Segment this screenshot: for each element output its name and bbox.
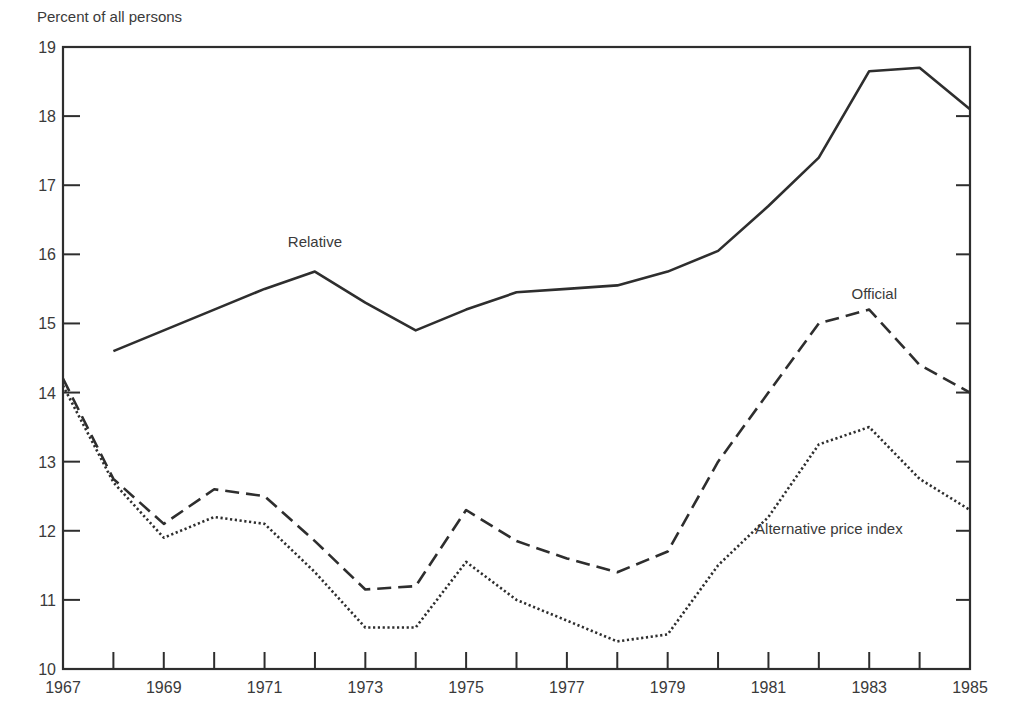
y-tick-label: 13 [38, 454, 56, 471]
y-tick-label: 16 [38, 246, 56, 263]
x-tick-label: 1971 [247, 679, 283, 696]
x-tick-label: 1967 [45, 679, 81, 696]
y-tick-label: 10 [38, 661, 56, 678]
y-tick-label: 14 [38, 385, 56, 402]
series-label: Official [851, 285, 897, 302]
series-label: Relative [288, 233, 342, 250]
series-label: Alternative price index [755, 520, 903, 537]
x-tick-label: 1975 [448, 679, 484, 696]
x-tick-label: 1981 [751, 679, 787, 696]
y-tick-label: 17 [38, 177, 56, 194]
x-tick-label: 1983 [851, 679, 887, 696]
y-tick-label: 18 [38, 108, 56, 125]
x-tick-label: 1973 [348, 679, 384, 696]
series-line-alternative-price-index [63, 386, 970, 642]
x-tick-label: 1985 [952, 679, 988, 696]
x-tick-label: 1979 [650, 679, 686, 696]
x-tick-label: 1969 [146, 679, 182, 696]
line-chart: 1011121314151617181919671969197119731975… [0, 0, 1010, 721]
y-tick-label: 19 [38, 39, 56, 56]
y-tick-label: 15 [38, 315, 56, 332]
y-tick-label: 12 [38, 523, 56, 540]
x-tick-label: 1977 [549, 679, 585, 696]
plot-frame [63, 47, 970, 669]
series-line-official [63, 310, 970, 590]
series-line-relative [113, 68, 970, 351]
y-tick-label: 11 [39, 592, 56, 609]
